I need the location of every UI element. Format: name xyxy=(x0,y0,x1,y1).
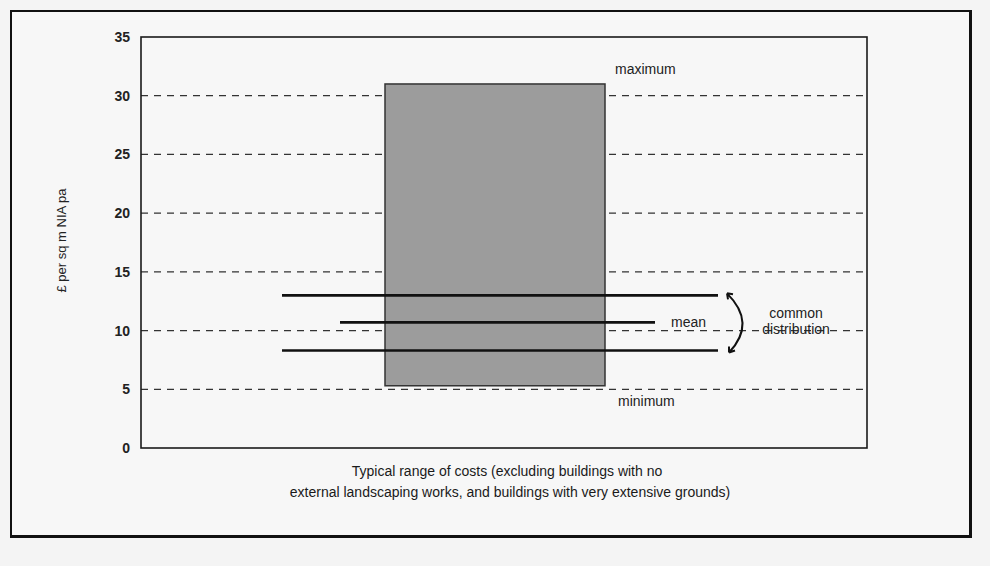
y-tick-label-30: 30 xyxy=(114,88,130,104)
y-tick-label-5: 5 xyxy=(122,381,130,397)
x-axis-caption-line2: external landscaping works, and building… xyxy=(290,484,730,500)
minimum-label: minimum xyxy=(618,393,675,409)
y-axis-label: £ per sq m NIA pa xyxy=(54,188,69,293)
y-tick-label-20: 20 xyxy=(114,205,130,221)
y-tick-label-35: 35 xyxy=(114,29,130,45)
common-distribution-label-line2: distribution xyxy=(762,321,830,337)
cost-range-box xyxy=(385,84,605,386)
y-axis-ticks: 05101520253035 xyxy=(114,29,130,456)
x-axis-caption-line1: Typical range of costs (excluding buildi… xyxy=(352,463,663,479)
distribution-bracket-icon xyxy=(727,293,743,352)
maximum-label: maximum xyxy=(615,61,676,77)
mean-label: mean xyxy=(671,314,706,330)
range-chart: 05101520253035 £ per sq m NIA pa maximum… xyxy=(0,0,990,566)
y-tick-label-0: 0 xyxy=(122,440,130,456)
y-tick-label-10: 10 xyxy=(114,323,130,339)
common-distribution-label-line1: common xyxy=(769,305,823,321)
y-tick-label-25: 25 xyxy=(114,146,130,162)
y-tick-label-15: 15 xyxy=(114,264,130,280)
